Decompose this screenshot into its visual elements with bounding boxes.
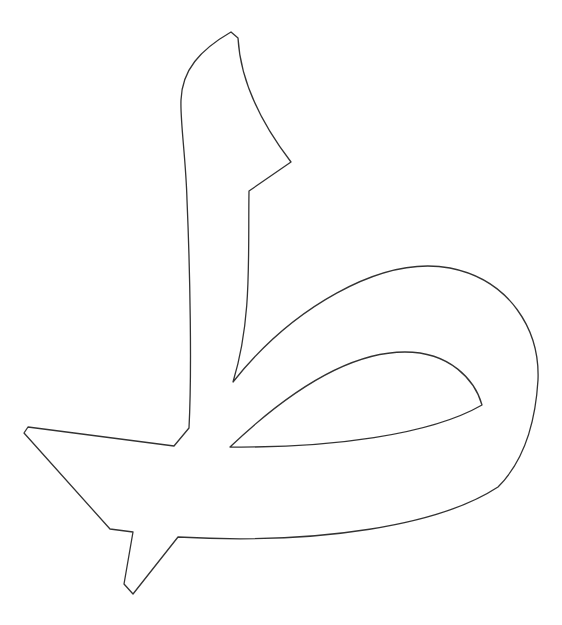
glyph-outer-contour (24, 32, 538, 594)
arabic-ta-glyph-outline (0, 0, 562, 625)
glyph-canvas: ط (0, 0, 562, 625)
